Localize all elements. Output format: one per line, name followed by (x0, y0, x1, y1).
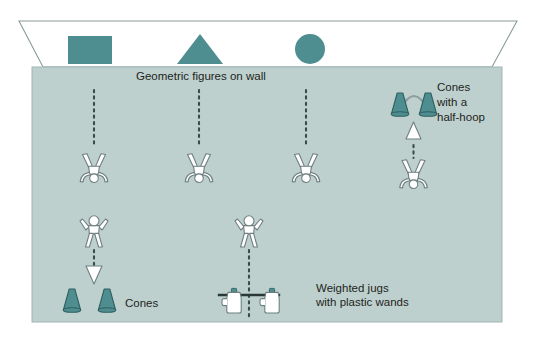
jugs-label-line1: Weighted jugs (316, 282, 389, 294)
circle-shape (295, 34, 325, 64)
jugs-label-line2: with plastic wands (315, 296, 409, 308)
diagram-canvas: Cones Weighted jugs with plastic wands (0, 0, 534, 337)
cones-label: Cones (125, 297, 158, 309)
cones-halfhoop-label-line1: Cones (437, 81, 470, 93)
cones-halfhoop-label-line2: with a (436, 96, 468, 108)
square-shape (68, 36, 112, 64)
wall-figures-label: Geometric figures on wall (136, 70, 266, 82)
wall-panel (19, 21, 517, 67)
cones-halfhoop-label-line3: half-hoop (437, 111, 485, 123)
exercise-layout-diagram: Cones Weighted jugs with plastic wands (0, 0, 534, 337)
